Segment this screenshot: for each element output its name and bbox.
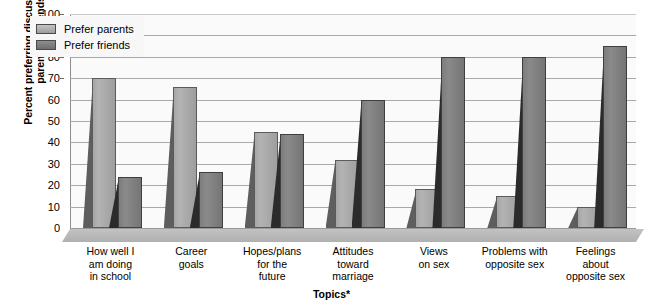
x-category-label: Problems withopposite sex bbox=[474, 245, 555, 270]
x-category-label-line: goals bbox=[151, 258, 232, 271]
x-category-label-line: future bbox=[232, 270, 313, 283]
y-tick-label-10: 10 bbox=[34, 201, 60, 213]
x-category-label-line: Problems with bbox=[474, 245, 555, 258]
legend-swatch-friends bbox=[36, 40, 56, 50]
x-category-label-line: How well I bbox=[70, 245, 151, 258]
x-category-label: Hopes/plansfor thefuture bbox=[232, 245, 313, 283]
x-category-label-line: Attitudes bbox=[313, 245, 394, 258]
floor-top-edge bbox=[70, 228, 636, 229]
chart-floor bbox=[62, 228, 644, 242]
y-tick-label-0: 0 bbox=[34, 222, 60, 234]
x-category-label-line: Feelings bbox=[555, 245, 636, 258]
x-category-label: Attitudestowardmarriage bbox=[313, 245, 394, 283]
y-tick-label-20: 20 bbox=[34, 179, 60, 191]
x-category-label-line: marriage bbox=[313, 270, 394, 283]
floor-slab bbox=[62, 229, 644, 242]
x-category-label: Careergoals bbox=[151, 245, 232, 270]
bar-friends bbox=[603, 46, 627, 228]
bar-front-face bbox=[361, 100, 385, 228]
y-tick-label-30: 30 bbox=[34, 158, 60, 170]
bar-friends bbox=[441, 57, 465, 228]
legend-swatch-parents bbox=[36, 24, 56, 34]
y-tick-label-40: 40 bbox=[34, 136, 60, 148]
y-tick-label-60: 60 bbox=[34, 94, 60, 106]
y-tick-mark-70 bbox=[60, 78, 64, 79]
x-category-label-line: Career bbox=[151, 245, 232, 258]
legend-item-prefer-friends: Prefer friends bbox=[36, 37, 134, 52]
x-category-label-line: opposite sex bbox=[474, 258, 555, 271]
bar-friends bbox=[280, 134, 304, 228]
bar-group bbox=[313, 14, 394, 228]
bar-friends bbox=[522, 57, 546, 228]
legend-label-parents: Prefer parents bbox=[64, 23, 134, 35]
x-category-label: Viewson sex bbox=[393, 245, 474, 270]
bar-group bbox=[151, 14, 232, 228]
x-category-label-line: in school bbox=[70, 270, 151, 283]
x-category-label-line: on sex bbox=[393, 258, 474, 271]
x-category-label-line: Hopes/plans bbox=[232, 245, 313, 258]
y-tick-mark-100 bbox=[60, 14, 64, 15]
bar-front-face bbox=[280, 134, 304, 228]
bar-friends bbox=[361, 100, 385, 228]
x-category-label-line: toward bbox=[313, 258, 394, 271]
y-tick-label-50: 50 bbox=[34, 115, 60, 127]
bar-group bbox=[555, 14, 636, 228]
legend: Prefer parents Prefer friends bbox=[30, 16, 144, 57]
bar-front-face bbox=[603, 46, 627, 228]
bar-front-face bbox=[522, 57, 546, 228]
x-category-label-line: for the bbox=[232, 258, 313, 271]
bar-chart-figure: Percent preferring discussion with paren… bbox=[0, 0, 663, 307]
y-tick-label-70: 70 bbox=[34, 72, 60, 84]
x-category-label-line: Views bbox=[393, 245, 474, 258]
x-category-label-line: opposite sex bbox=[555, 270, 636, 283]
x-category-label: How well Iam doingin school bbox=[70, 245, 151, 283]
bar-group bbox=[474, 14, 555, 228]
bar-front-face bbox=[92, 78, 116, 228]
x-category-label-line: about bbox=[555, 258, 636, 271]
bar-front-face bbox=[173, 87, 197, 228]
bar-parents bbox=[173, 87, 197, 228]
bar-parents bbox=[92, 78, 116, 228]
bar-front-face bbox=[199, 172, 223, 228]
x-category-label: Feelingsaboutopposite sex bbox=[555, 245, 636, 283]
bar-front-face bbox=[118, 177, 142, 228]
bars-layer bbox=[70, 14, 636, 228]
legend-label-friends: Prefer friends bbox=[64, 39, 130, 51]
bar-group bbox=[232, 14, 313, 228]
x-category-label-line: am doing bbox=[70, 258, 151, 271]
bar-friends bbox=[118, 177, 142, 228]
x-axis-category-labels: How well Iam doingin schoolCareergoalsHo… bbox=[70, 245, 636, 293]
legend-item-prefer-parents: Prefer parents bbox=[36, 21, 134, 36]
x-axis-title: Topics* bbox=[0, 288, 663, 300]
bar-front-face bbox=[441, 57, 465, 228]
bar-group bbox=[393, 14, 474, 228]
bar-friends bbox=[199, 172, 223, 228]
